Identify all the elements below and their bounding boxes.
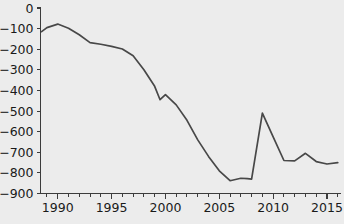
plot-area [42,24,338,181]
x-tick-label: 2000 [150,200,182,215]
y-tick-group: 0−100−200−300−400−500−600−700−800−900 [0,1,41,202]
y-tick-label: −800 [0,165,34,180]
line-chart: 0−100−200−300−400−500−600−700−800−900 19… [0,0,344,224]
y-tick-label: −600 [0,124,34,139]
x-tick-label: 1995 [96,200,128,215]
data-series-line [42,24,338,181]
y-tick-label: −300 [0,62,34,77]
x-tick-label: 1990 [42,200,74,215]
x-tick-group: 199019952000200520102015 [42,194,343,215]
x-tick-label: 2010 [257,200,289,215]
y-tick-label: −100 [0,21,34,36]
x-tick-label: 2015 [311,200,343,215]
x-axis-group: 199019952000200520102015 [41,194,343,215]
y-axis-group: 0−100−200−300−400−500−600−700−800−900 [0,1,41,202]
x-tick-label: 2005 [203,200,235,215]
chart-container: 0−100−200−300−400−500−600−700−800−900 19… [0,0,344,224]
y-tick-label: −700 [0,145,34,160]
y-tick-label: −900 [0,186,34,201]
y-tick-label: 0 [26,1,34,16]
y-tick-label: −500 [0,104,34,119]
y-tick-label: −200 [0,42,34,57]
y-tick-label: −400 [0,83,34,98]
